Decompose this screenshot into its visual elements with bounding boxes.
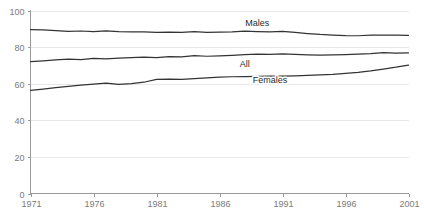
x-tick-label-1986: 1986	[210, 199, 230, 209]
x-tick-label-1991: 1991	[273, 199, 293, 209]
y-tick-label-80: 80	[14, 43, 24, 53]
x-tick-label-1971: 1971	[21, 199, 41, 209]
series-line-males	[31, 30, 409, 36]
series-label-females: Females	[253, 75, 288, 85]
series-label-males: Males	[245, 18, 270, 28]
axes	[31, 10, 409, 194]
y-tick-label-20: 20	[14, 153, 24, 163]
y-tick-label-60: 60	[14, 80, 24, 90]
series-labels: MalesMalesAllAllFemalesFemales	[240, 18, 288, 85]
y-tick-label-100: 100	[9, 7, 24, 17]
x-tick-label-2001: 2001	[399, 199, 419, 209]
x-tick-label-1996: 1996	[336, 199, 356, 209]
line-chart: 020406080100 197119761981198619911996200…	[0, 0, 424, 216]
chart-canvas: 020406080100 197119761981198619911996200…	[0, 0, 424, 216]
y-tick-label-40: 40	[14, 116, 24, 126]
series-line-females	[31, 65, 409, 90]
y-axis-ticks: 020406080100	[9, 7, 30, 200]
series-line-all	[31, 53, 409, 62]
x-axis-ticks: 1971197619811986199119962001	[21, 194, 419, 209]
x-tick-label-1981: 1981	[147, 199, 167, 209]
series-label-all: All	[240, 59, 250, 69]
x-tick-label-1976: 1976	[84, 199, 104, 209]
data-series	[31, 30, 409, 91]
